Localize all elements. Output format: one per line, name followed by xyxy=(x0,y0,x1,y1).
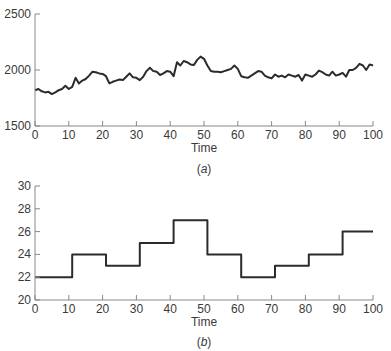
x-tick-label: 100 xyxy=(363,128,383,142)
chart-b-axes: 2022242628300102030405060708090100 xyxy=(18,179,384,316)
x-tick-label: 20 xyxy=(96,302,110,316)
x-tick-label: 80 xyxy=(299,302,313,316)
x-tick-label: 10 xyxy=(62,128,76,142)
x-tick-label: 60 xyxy=(231,128,245,142)
x-tick-label: 40 xyxy=(164,128,178,142)
y-tick-label: 1500 xyxy=(4,119,31,133)
chart-a-x-axis-title: Time xyxy=(191,141,218,155)
x-tick-label: 60 xyxy=(231,302,245,316)
x-tick-label: 70 xyxy=(265,128,279,142)
y-tick-label: 22 xyxy=(18,270,32,284)
x-tick-label: 90 xyxy=(333,302,347,316)
x-tick-label: 10 xyxy=(62,302,76,316)
chart-b-panel-label: (b) xyxy=(197,335,212,349)
x-tick-label: 30 xyxy=(130,128,144,142)
chart-b-x-axis-title: Time xyxy=(191,315,218,329)
x-tick-label: 0 xyxy=(32,128,39,142)
x-tick-label: 50 xyxy=(197,128,211,142)
figure: 1500200025000102030405060708090100 Time … xyxy=(0,0,391,351)
x-tick-label: 50 xyxy=(197,302,211,316)
x-tick-label: 0 xyxy=(32,302,39,316)
chart-b-step-line xyxy=(35,220,373,277)
x-tick-label: 100 xyxy=(363,302,383,316)
x-tick-label: 90 xyxy=(333,128,347,142)
y-tick-label: 20 xyxy=(18,293,32,307)
x-tick-label: 80 xyxy=(299,128,313,142)
x-tick-label: 30 xyxy=(130,302,144,316)
y-tick-label: 28 xyxy=(18,202,32,216)
chart-panel-b: 2022242628300102030405060708090100 Time … xyxy=(18,179,384,349)
y-tick-label: 26 xyxy=(18,225,32,239)
y-tick-label: 2000 xyxy=(4,63,31,77)
y-tick-label: 30 xyxy=(18,179,32,193)
y-tick-label: 2500 xyxy=(4,7,31,21)
y-tick-label: 24 xyxy=(18,247,32,261)
chart-a-panel-label: (a) xyxy=(197,162,212,176)
chart-panel-a: 1500200025000102030405060708090100 Time … xyxy=(4,7,383,176)
chart-a-series-line xyxy=(35,57,373,95)
x-tick-label: 40 xyxy=(164,302,178,316)
x-tick-label: 20 xyxy=(96,128,110,142)
x-tick-label: 70 xyxy=(265,302,279,316)
